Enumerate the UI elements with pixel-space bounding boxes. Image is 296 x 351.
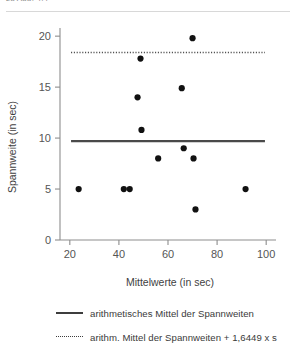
- y-tick-label: 0: [45, 234, 51, 246]
- data-points: [76, 35, 249, 212]
- x-axis-title: Mittelwerte (in sec): [126, 276, 214, 288]
- legend-label-upper-bound: arithm. Mittel der Spannweiten + 1,6449 …: [90, 332, 277, 343]
- legend-swatch-dotted-line-icon: [56, 333, 83, 341]
- x-tick-label: 80: [211, 248, 223, 260]
- y-tick-label: 5: [45, 183, 51, 195]
- x-tick-label: 100: [257, 248, 275, 260]
- data-point: [181, 145, 187, 151]
- data-point: [127, 186, 133, 192]
- header-divider: [6, 11, 290, 12]
- data-point: [190, 155, 196, 161]
- y-axis: 05101520: [39, 28, 60, 246]
- data-point: [137, 55, 143, 61]
- y-axis-title: Spannweite (in sec): [6, 101, 18, 193]
- figure-caption-clipped: zu Abb. 4.4: [6, 0, 48, 3]
- y-tick-label: 15: [39, 81, 51, 93]
- data-point: [242, 186, 248, 192]
- top-caption-strip: zu Abb. 4.4: [0, 0, 296, 14]
- x-axis: 20406080100: [60, 240, 276, 260]
- data-point: [76, 186, 82, 192]
- legend-item-upper-bound: arithm. Mittel der Spannweiten + 1,6449 …: [56, 330, 277, 344]
- data-point: [179, 85, 185, 91]
- chart-legend: arithmetisches Mittel der Spannweiten ar…: [0, 300, 296, 351]
- data-point: [121, 186, 127, 192]
- y-tick-label: 10: [39, 132, 51, 144]
- x-tick-label: 60: [162, 248, 174, 260]
- legend-swatch-solid-line-icon: [56, 309, 83, 317]
- data-point: [189, 35, 195, 41]
- plot-canvas: 05101520 20406080100 Spannweite (in sec)…: [0, 14, 296, 299]
- y-tick-label: 20: [39, 30, 51, 42]
- x-tick-label: 20: [64, 248, 76, 260]
- legend-label-mean: arithmetisches Mittel der Spannweiten: [90, 308, 254, 319]
- data-point: [192, 206, 198, 212]
- x-tick-label: 40: [113, 248, 125, 260]
- data-point: [155, 155, 161, 161]
- legend-item-mean: arithmetisches Mittel der Spannweiten: [56, 306, 254, 320]
- scatter-chart: 05101520 20406080100 Spannweite (in sec)…: [0, 14, 296, 299]
- data-point: [138, 127, 144, 133]
- reference-lines: [71, 52, 265, 141]
- data-point: [134, 94, 140, 100]
